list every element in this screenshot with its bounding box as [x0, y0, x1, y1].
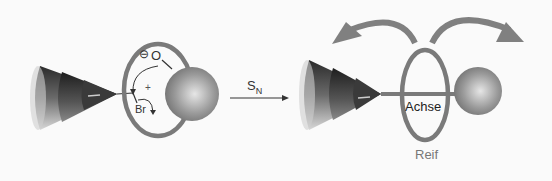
- rotation-arrow-left: [332, 22, 415, 44]
- axle-label: Achse: [405, 99, 441, 114]
- right-cone-stopper: [299, 60, 381, 130]
- oxygen-label: O: [151, 48, 161, 63]
- reaction-arrow: [230, 95, 289, 101]
- rotation-arrow-right: [432, 20, 524, 43]
- diagram-graphics: [0, 0, 552, 181]
- negative-charge-label: ⊖: [139, 47, 149, 61]
- reaction-type-main: S: [247, 78, 256, 93]
- left-sphere: [165, 67, 219, 121]
- reaction-type-subscript: N: [256, 86, 263, 96]
- bromine-label: Br: [135, 103, 146, 115]
- left-cone-stopper: [30, 66, 117, 130]
- rotaxane-diagram: ⊖ O + Br SN Achse Reif: [0, 0, 552, 181]
- reaction-type-label: SN: [247, 78, 262, 96]
- right-sphere: [454, 67, 502, 115]
- plus-charge-label: +: [145, 82, 151, 93]
- ring-label: Reif: [415, 147, 438, 162]
